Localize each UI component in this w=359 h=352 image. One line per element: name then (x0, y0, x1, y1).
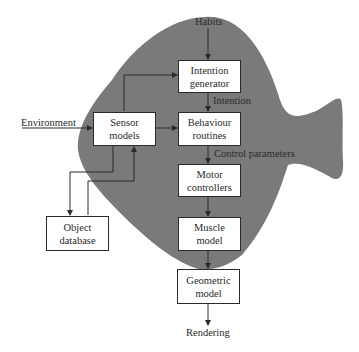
node-label-line1: Behaviour (188, 116, 232, 129)
node-label-line1: Geometric (186, 274, 230, 287)
node-geometric-model: Geometric model (177, 269, 240, 304)
node-label-line2: routines (193, 129, 227, 142)
node-label-line2: controllers (187, 181, 232, 194)
node-motor-controllers: Motor controllers (178, 164, 241, 197)
label-habits: Habits (195, 16, 222, 28)
node-label-line1: Intention (191, 64, 229, 77)
label-environment: Environment (21, 117, 76, 129)
node-label-line2: generator (190, 77, 230, 90)
label-intention: Intention (213, 95, 251, 107)
node-label-line1: Motor (196, 168, 222, 181)
node-behaviour-routines: Behaviour routines (178, 112, 241, 146)
node-label-line1: Sensor (110, 116, 139, 129)
node-label-line1: Muscle (194, 221, 225, 234)
node-label-line2: database (59, 234, 95, 247)
node-label-line1: Object (64, 221, 92, 234)
node-muscle-model: Muscle model (178, 217, 241, 251)
label-control-parameters: Control parameters (214, 148, 295, 160)
node-label-line2: model (195, 287, 221, 300)
label-rendering: Rendering (186, 327, 230, 339)
node-sensor-models: Sensor models (93, 112, 156, 146)
node-intention-generator: Intention generator (178, 60, 241, 93)
node-label-line2: model (196, 234, 222, 247)
node-object-database: Object database (46, 216, 109, 251)
node-label-line2: models (109, 129, 139, 142)
